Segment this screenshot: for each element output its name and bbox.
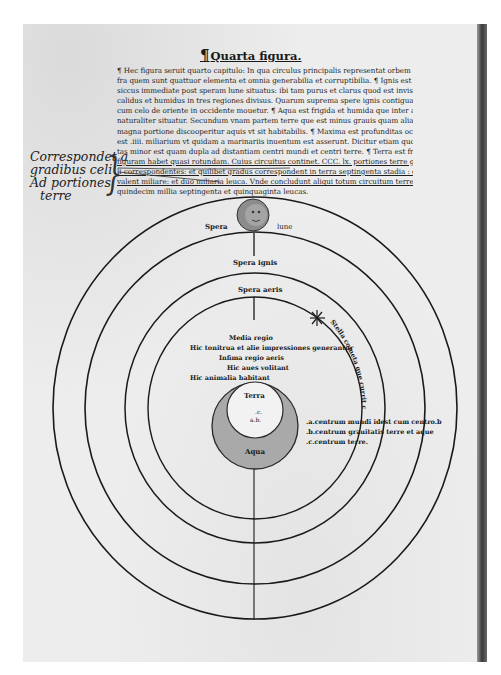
label-tonitrua: Hic tonitrua et alie impressiones genera… xyxy=(190,344,354,352)
legend-b: .b.centrum grauitatis terre et aque xyxy=(306,428,434,436)
label-aqua: Aqua xyxy=(244,447,265,456)
margin-connector-line xyxy=(118,172,220,182)
label-aues: Hic aues volitant xyxy=(227,364,289,372)
legend-c: .c.centrum terre. xyxy=(306,438,368,446)
margin-connector-line xyxy=(118,168,290,169)
label-media-regio: Media regio xyxy=(229,334,273,342)
label-spera-aeris: Spera aeris xyxy=(238,285,282,294)
label-c-mark: .c. xyxy=(255,408,262,415)
cosmological-diagram: Spera lune Spera ignis Spera aeris Media… xyxy=(0,0,501,675)
label-ab-mark: a.b. xyxy=(250,416,261,423)
label-animalia: Hic animalia habitant xyxy=(190,374,270,382)
label-lune: lune xyxy=(277,223,292,231)
moon-face-icon xyxy=(237,199,269,231)
legend-a: .a.centrum mundi idest cum centro.b xyxy=(306,418,442,426)
label-terra: Terra xyxy=(244,391,265,400)
label-infima-regio: Infima regio aeris xyxy=(219,354,284,362)
label-spera-ignis: Spera ignis xyxy=(233,258,277,267)
label-spera: Spera xyxy=(205,222,228,231)
comet-star-icon xyxy=(310,310,325,326)
